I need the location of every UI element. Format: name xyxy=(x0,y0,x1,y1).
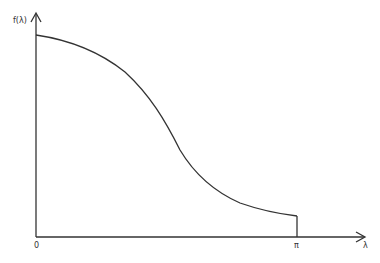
pi-tick-label: π xyxy=(294,241,299,250)
x-axis-label: λ xyxy=(363,241,368,250)
y-axis-label: f(λ) xyxy=(13,16,27,25)
chart-canvas xyxy=(0,0,380,263)
origin-label: 0 xyxy=(34,241,39,250)
function-curve xyxy=(36,35,297,216)
